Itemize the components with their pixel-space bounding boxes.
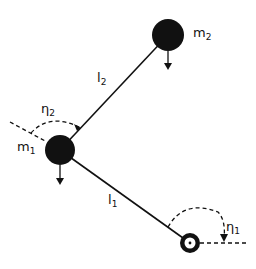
pivot-center xyxy=(189,242,192,245)
angle-arc-eta2 xyxy=(31,121,81,133)
mass-m1 xyxy=(45,135,75,165)
label-m1: m1 xyxy=(17,140,35,156)
label-l1: l1 xyxy=(108,193,117,209)
label-l2: l2 xyxy=(97,71,106,87)
rod-l2 xyxy=(60,35,168,150)
label-eta1: η1 xyxy=(226,220,240,236)
gravity-arrowhead-m1 xyxy=(56,178,64,185)
arrowhead-eta2 xyxy=(74,124,81,131)
label-m2: m2 xyxy=(193,26,211,42)
pendulum-diagram xyxy=(0,0,256,269)
rod-l1 xyxy=(60,150,190,243)
mass-m2 xyxy=(152,19,184,51)
label-eta2: η2 xyxy=(41,102,55,118)
gravity-arrowhead-m2 xyxy=(164,63,172,70)
